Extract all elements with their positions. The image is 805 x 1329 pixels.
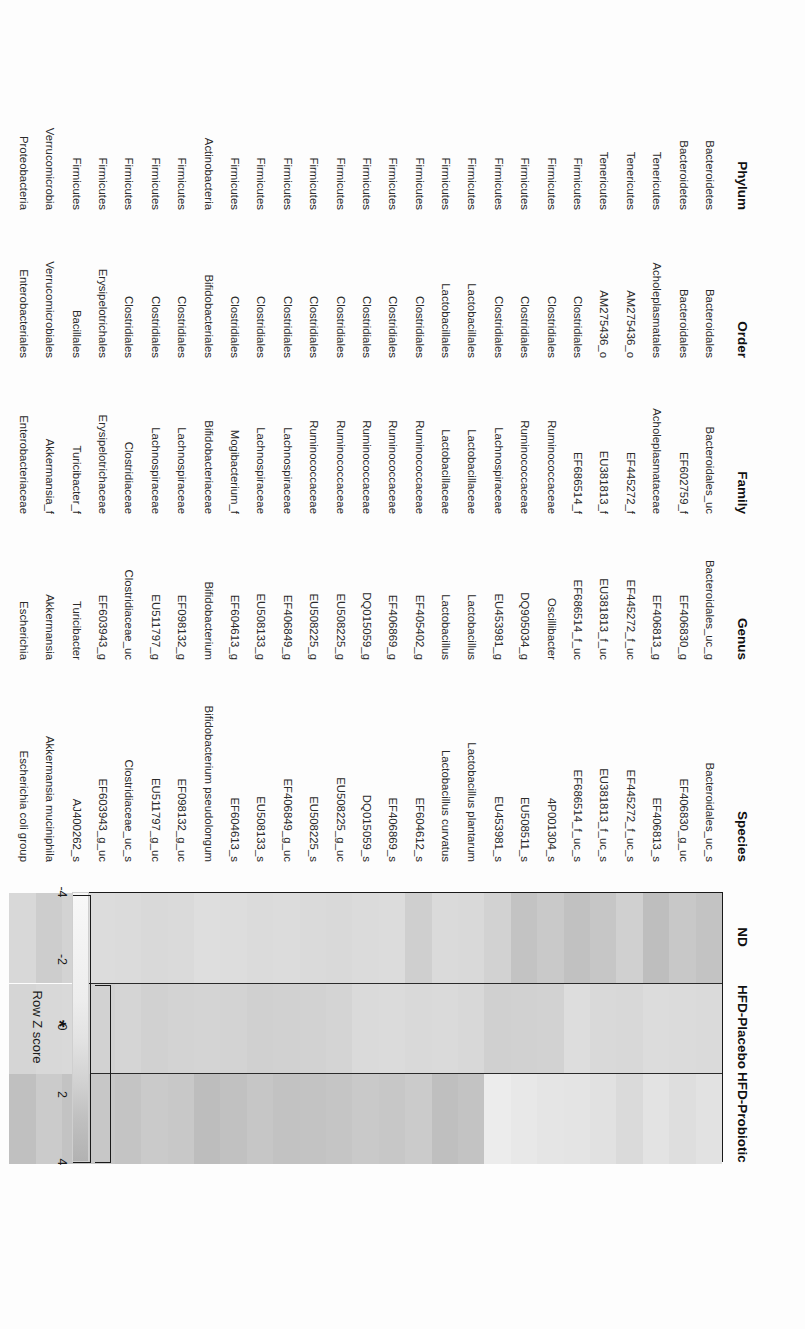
taxon-genus: Akkermansia (37, 520, 64, 660)
taxon-species: EF604612_s (406, 666, 433, 862)
heatmap-cell (405, 893, 431, 983)
heatmap-cell (484, 893, 510, 983)
taxon-phylum: Firmicutes (89, 92, 116, 210)
taxon-genus: Escherichia (10, 520, 37, 660)
heatmap-cell (669, 893, 695, 983)
taxon-phylum: Verrucomicrobia (37, 92, 64, 210)
taxon-species: EF406813_s (644, 666, 671, 862)
taxon-family: EF445272_f (617, 364, 644, 514)
table-row: VerrucomicrobiaVerrucomicrobialesAkkerma… (37, 92, 63, 862)
heatmap-cell (432, 984, 458, 1074)
heatmap-cell (115, 1074, 141, 1164)
taxon-phylum: Firmicutes (142, 92, 169, 210)
taxon-genus: EF686514_f_uc (564, 520, 591, 660)
taxon-family: Ruminococcaceae (300, 364, 327, 514)
taxon-phylum: Firmicutes (63, 92, 90, 210)
taxon-order: Clostridiales (564, 218, 591, 358)
heatmap-panel: ND HFD-Placebo HFD-Probiotic (67, 892, 757, 1264)
heatmap-cell (590, 1074, 616, 1164)
heatmap-cell (379, 984, 405, 1074)
heatmap-cell (247, 1074, 273, 1164)
heatmap-cell (537, 1074, 563, 1164)
taxon-species: Lactobacillus plantarum (459, 666, 486, 862)
taxon-genus: EF406813_g (644, 520, 671, 660)
taxon-phylum: Tenericutes (644, 92, 671, 210)
taxon-genus: Clostridiaceae_uc (116, 520, 143, 660)
taxon-phylum: Firmicutes (248, 92, 275, 210)
taxon-species: EF406849_g_uc (274, 666, 301, 862)
taxon-family: Lachnospiraceae (142, 364, 169, 514)
taxon-family: Mogibacterium_f (221, 364, 248, 514)
heatmap-cell (115, 893, 141, 983)
table-row: FirmicutesClostridialesRuminococcaceaeEF… (406, 92, 432, 862)
taxon-order: Clostridiales (274, 218, 301, 358)
colorbar-tick: 2 (55, 1091, 69, 1098)
taxon-order: Clostridiales (116, 218, 143, 358)
taxon-phylum: Bacteroidetes (670, 92, 697, 210)
heatmap-cell (352, 984, 378, 1074)
taxon-species: EF445272_f_uc_s (617, 666, 644, 862)
table-row: FirmicutesClostridialesRuminococcaceaeOs… (538, 92, 564, 862)
taxon-species: EU508225_g_uc (327, 666, 354, 862)
heatmap-cell (141, 893, 167, 983)
taxon-order: Acholeplasmatales (644, 218, 671, 358)
table-row: TenericutesAM275436_oEU381813_fEU381813_… (591, 92, 617, 862)
taxon-phylum: Firmicutes (564, 92, 591, 210)
heatmap-cell (300, 984, 326, 1074)
taxon-family: Bacteroidales_uc (696, 364, 723, 514)
table-row: FirmicutesClostridialesRuminococcaceaeEU… (301, 92, 327, 862)
column-header-genus: Genus (727, 520, 757, 660)
heatmap-cell (643, 984, 669, 1074)
table-row: FirmicutesClostridialesRuminococcaceaeDQ… (354, 92, 380, 862)
taxon-order: Clostridiales (300, 218, 327, 358)
taxon-family: Bifidobacteriaceae (195, 364, 222, 514)
taxon-genus: EU381813_f_uc (591, 520, 618, 660)
heatmap-cell (194, 1074, 220, 1164)
colorbar-gradient (72, 892, 89, 1162)
heatmap-cell (115, 984, 141, 1074)
taxon-species: EU381813_f_uc_s (591, 666, 618, 862)
heatmap-cell (643, 893, 669, 983)
heatmap-cell (511, 893, 537, 983)
heatmap-cell (300, 1074, 326, 1164)
taxon-order: Verrucomicrobiales (37, 218, 64, 358)
taxon-order: Clostridiales (221, 218, 248, 358)
taxon-genus: EF098132_g (169, 520, 196, 660)
heatmap-cell (326, 893, 352, 983)
taxon-genus: EU453981_g (485, 520, 512, 660)
taxon-genus: EU511797_g (142, 520, 169, 660)
taxon-species: EU511797_g_uc (142, 666, 169, 862)
heatmap-column-nd (90, 893, 722, 983)
heatmap-cell (194, 893, 220, 983)
taxon-order: Clostridiales (169, 218, 196, 358)
heatmap-cell (273, 1074, 299, 1164)
taxon-genus: Bifidobacterium (195, 520, 222, 660)
taxon-species: EF406869_s (380, 666, 407, 862)
heatmap-cell (484, 984, 510, 1074)
taxon-species: DQ015059_s (353, 666, 380, 862)
table-row: FirmicutesClostridialesMogibacterium_fEF… (222, 92, 248, 862)
taxon-family: Ruminococcaceae (538, 364, 565, 514)
taxon-genus: EF445272_f_uc (617, 520, 644, 660)
heatmap-cell (141, 984, 167, 1074)
heatmap-cell (247, 984, 273, 1074)
heatmap-cell (537, 893, 563, 983)
figure-rotator: Phylum Order Family Genus Species Bacter… (0, 0, 805, 1329)
heatmap-cell (405, 984, 431, 1074)
taxon-phylum: Bacteroidetes (696, 92, 723, 210)
taxon-genus: Lactobacillus (459, 520, 486, 660)
heatmap-cell (273, 984, 299, 1074)
table-row: FirmicutesClostridialesLachnospiraceaeEF… (274, 92, 300, 862)
heatmap-cell (696, 984, 722, 1074)
heatmap-cell (141, 1074, 167, 1164)
taxon-phylum: Firmicutes (221, 92, 248, 210)
heatmap-cell (458, 984, 484, 1074)
taxon-species: Bacteroidales_uc_s (696, 666, 723, 862)
taxon-genus: EU508225_g (327, 520, 354, 660)
heatmap-cell (405, 1074, 431, 1164)
taxon-species: EU453981_s (485, 666, 512, 862)
table-row: ProteobacteriaEnterobacterialesEnterobac… (10, 92, 36, 862)
taxon-family: Lachnospiraceae (169, 364, 196, 514)
taxonomy-table: Phylum Order Family Genus Species Bacter… (67, 92, 757, 862)
heatmap-group-labels: ND HFD-Placebo HFD-Probiotic (727, 892, 757, 1162)
